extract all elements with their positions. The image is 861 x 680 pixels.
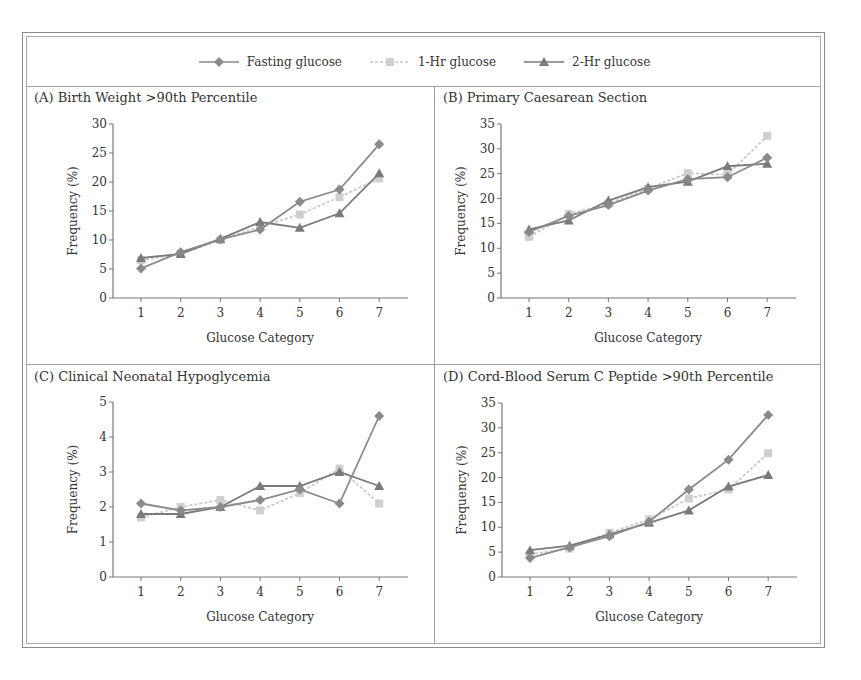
diamond-marker-icon <box>136 499 146 509</box>
y-tick-label: 20 <box>481 471 496 485</box>
x-tick-label: 6 <box>724 306 732 320</box>
x-axis-label: Glucose Category <box>206 610 314 624</box>
x-tick-label: 2 <box>177 585 185 599</box>
x-tick-label: 1 <box>137 585 145 599</box>
x-tick-label: 7 <box>375 585 383 599</box>
y-tick-label: 30 <box>480 142 495 156</box>
x-tick-label: 1 <box>137 306 145 320</box>
x-tick-label: 4 <box>256 306 264 320</box>
y-tick-label: 15 <box>481 495 496 509</box>
diamond-marker-icon <box>136 263 146 273</box>
square-marker-icon <box>764 449 772 457</box>
charts-canvas: 0510152025301234567Glucose CategoryFrequ… <box>0 0 861 680</box>
x-tick-label: 4 <box>645 585 653 599</box>
y-tick-label: 15 <box>480 216 495 230</box>
y-tick-label: 4 <box>99 430 107 444</box>
y-tick-label: 35 <box>480 117 495 131</box>
x-tick-label: 1 <box>525 306 533 320</box>
panel-c-plot: 0123451234567Glucose CategoryFrequency (… <box>66 395 408 624</box>
x-tick-label: 3 <box>217 585 225 599</box>
y-tick-label: 2 <box>99 500 107 514</box>
triangle-marker-icon <box>374 168 384 177</box>
triangle-marker-icon <box>763 470 773 479</box>
x-tick-label: 2 <box>177 306 185 320</box>
x-tick-label: 6 <box>336 306 344 320</box>
panel-b-plot: 051015202530351234567Glucose CategoryFre… <box>454 117 796 345</box>
x-tick-label: 4 <box>644 306 652 320</box>
x-tick-label: 6 <box>725 585 733 599</box>
x-tick-label: 5 <box>684 306 692 320</box>
y-tick-label: 0 <box>99 291 107 305</box>
square-marker-icon <box>296 210 304 218</box>
y-tick-label: 5 <box>99 395 107 409</box>
y-tick-label: 0 <box>488 570 496 584</box>
x-tick-label: 7 <box>375 306 383 320</box>
y-tick-label: 10 <box>480 241 495 255</box>
y-axis-label: Frequency (%) <box>66 445 80 534</box>
diamond-marker-icon <box>762 153 772 163</box>
x-axis-label: Glucose Category <box>595 610 703 624</box>
x-tick-label: 2 <box>566 585 574 599</box>
y-tick-label: 5 <box>99 262 107 276</box>
square-marker-icon <box>256 507 264 515</box>
y-tick-label: 20 <box>92 175 107 189</box>
y-tick-label: 10 <box>481 520 496 534</box>
square-marker-icon <box>763 132 771 140</box>
y-tick-label: 10 <box>92 233 107 247</box>
triangle-marker-icon <box>684 505 694 514</box>
x-tick-label: 3 <box>606 585 614 599</box>
y-tick-label: 1 <box>99 535 107 549</box>
y-axis-label: Frequency (%) <box>455 445 469 534</box>
y-tick-label: 25 <box>480 167 495 181</box>
square-marker-icon <box>685 494 693 502</box>
x-tick-label: 2 <box>565 306 573 320</box>
x-axis-label: Glucose Category <box>594 331 702 345</box>
x-tick-label: 4 <box>256 585 264 599</box>
x-tick-label: 5 <box>685 585 693 599</box>
y-tick-label: 25 <box>92 146 107 160</box>
y-tick-label: 25 <box>481 446 496 460</box>
panel-d-plot: 051015202530351234567Glucose CategoryFre… <box>455 396 797 624</box>
x-tick-label: 3 <box>605 306 613 320</box>
y-tick-label: 5 <box>487 266 495 280</box>
square-marker-icon <box>375 500 383 508</box>
x-tick-label: 3 <box>217 306 225 320</box>
y-tick-label: 15 <box>92 204 107 218</box>
y-tick-label: 3 <box>99 465 107 479</box>
y-tick-label: 30 <box>481 421 496 435</box>
x-tick-label: 5 <box>296 585 304 599</box>
y-tick-label: 20 <box>480 192 495 206</box>
y-tick-label: 30 <box>92 117 107 131</box>
x-tick-label: 5 <box>296 306 304 320</box>
x-axis-label: Glucose Category <box>206 331 314 345</box>
panel-a-plot: 0510152025301234567Glucose CategoryFrequ… <box>66 117 408 345</box>
x-tick-label: 7 <box>764 585 772 599</box>
y-axis-label: Frequency (%) <box>66 166 80 255</box>
x-tick-label: 7 <box>763 306 771 320</box>
diamond-marker-icon <box>255 495 265 505</box>
x-tick-label: 6 <box>336 585 344 599</box>
series-line-fasting <box>141 144 379 268</box>
series-line-1hr <box>530 453 768 554</box>
y-tick-label: 0 <box>99 570 107 584</box>
y-tick-label: 0 <box>487 291 495 305</box>
y-tick-label: 5 <box>488 545 496 559</box>
x-tick-label: 1 <box>526 585 534 599</box>
diamond-marker-icon <box>374 411 384 421</box>
diamond-marker-icon <box>335 499 345 509</box>
y-axis-label: Frequency (%) <box>454 166 468 255</box>
y-tick-label: 35 <box>481 396 496 410</box>
